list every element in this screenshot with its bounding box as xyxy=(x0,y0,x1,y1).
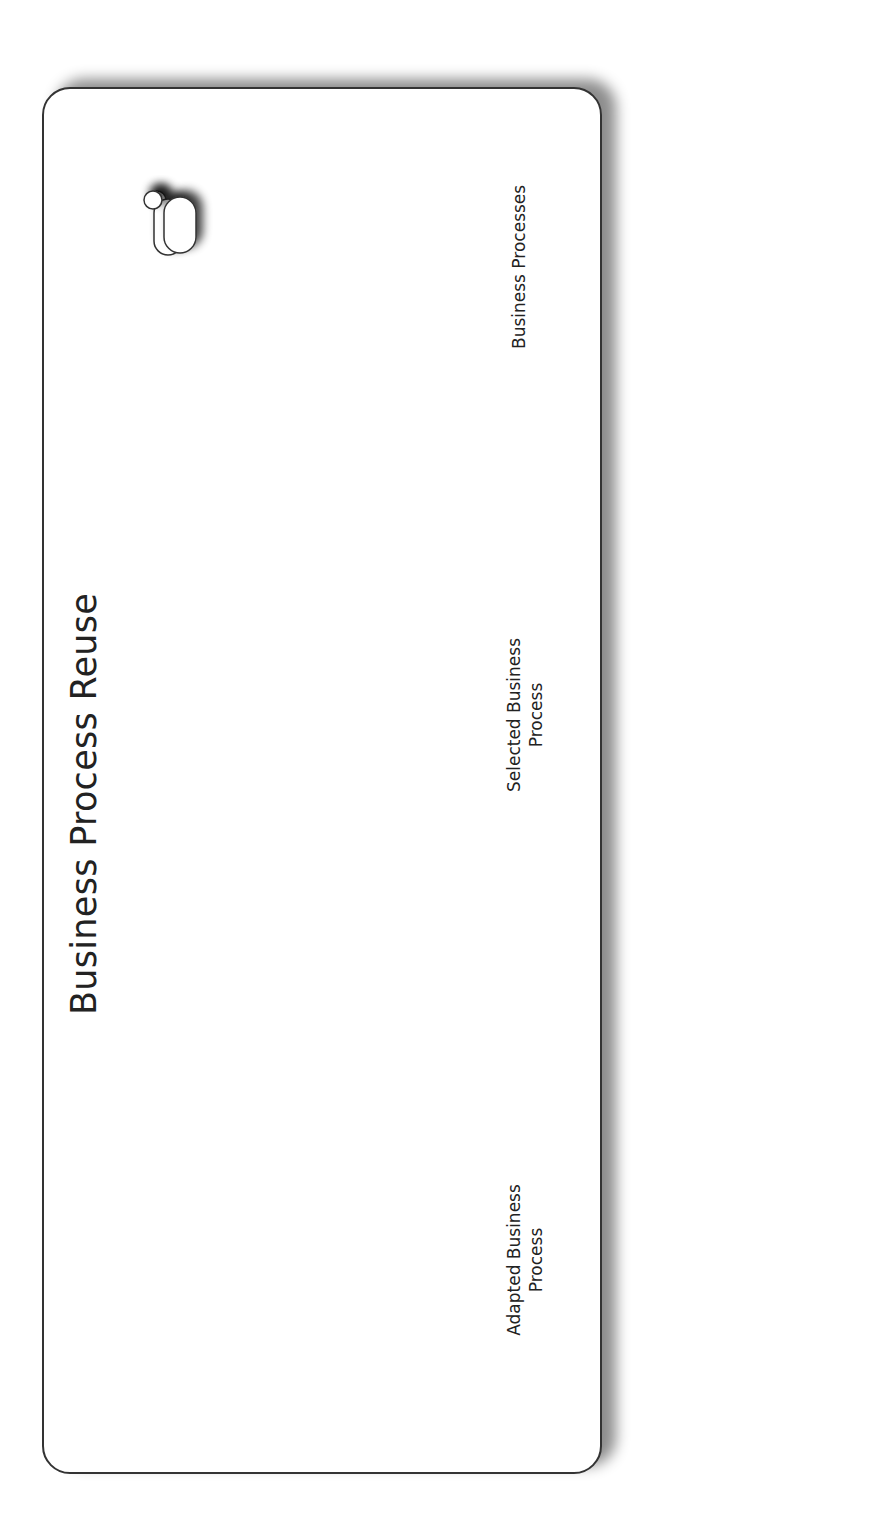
adapted-business-process-label-line2: Process xyxy=(525,1150,547,1370)
business-processes-icon xyxy=(0,0,886,1525)
business-processes-label: Business Processes xyxy=(508,185,530,349)
selected-business-process-label-line1: Selected Business xyxy=(503,595,525,835)
adapted-business-process-label-real: Adapted Business Process xyxy=(503,1150,547,1370)
selected-business-process-label: Selected Business Process xyxy=(503,595,547,835)
adapted-business-process-label-line1: Adapted Business xyxy=(503,1150,525,1370)
diagram-stage: Business Process Reuse xyxy=(0,0,886,1525)
selected-business-process-label-line2: Process xyxy=(525,595,547,835)
